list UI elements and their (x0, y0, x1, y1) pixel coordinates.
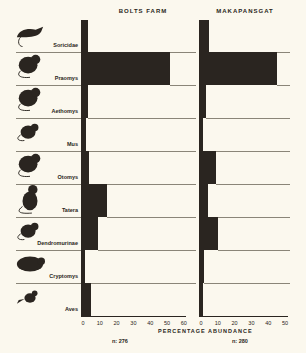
x-tick-label: 50 (282, 320, 288, 326)
rat-icon (8, 85, 52, 119)
rat-icon (8, 151, 52, 185)
bar-tatera (199, 184, 208, 217)
sample-size: n: 276 (112, 338, 128, 344)
row-divider (218, 250, 290, 251)
rat-icon (8, 52, 52, 86)
x-tick-label: 40 (265, 320, 271, 326)
x-axis-label: PERCENTAGE ABUNDANCE (158, 328, 253, 334)
x-tick-label: 0 (199, 320, 202, 326)
bar-soricidae (81, 20, 88, 52)
row-divider (204, 283, 290, 284)
mouse-icon (8, 118, 52, 152)
mole-rat-icon (8, 250, 52, 284)
bar-cryptomys (199, 250, 204, 283)
row-divider (170, 85, 196, 86)
row-divider (98, 250, 196, 251)
row-divider (277, 85, 290, 86)
x-tick-label: 30 (130, 320, 136, 326)
panel-title: BOLTS FARM (83, 8, 203, 14)
row-divider (85, 283, 196, 284)
x-tick-label: 30 (248, 320, 254, 326)
bar-cryptomys (81, 250, 85, 283)
bar-mus (199, 118, 203, 151)
row-divider (216, 184, 290, 185)
mouse-icon (8, 217, 52, 251)
row-divider (206, 118, 290, 119)
bar-otomys (81, 151, 89, 184)
x-tick-label: 10 (215, 320, 221, 326)
x-tick-label: 20 (114, 320, 120, 326)
x-tick-label: 40 (147, 320, 153, 326)
x-tick-label: 50 (164, 320, 170, 326)
x-axis (199, 316, 288, 317)
bar-aethomys (81, 85, 88, 118)
gerbil-icon (8, 184, 52, 218)
bar-soricidae (199, 20, 209, 52)
x-tick-label: 60 (181, 320, 187, 326)
x-tick-label: 20 (232, 320, 238, 326)
bar-otomys (199, 151, 216, 184)
row-divider (208, 217, 290, 218)
bird-icon (8, 283, 52, 317)
bar-tatera (81, 184, 107, 217)
x-axis (81, 316, 186, 317)
bar-praomys (199, 52, 277, 85)
bar-dendromurinae (81, 217, 98, 250)
bar-aves (81, 283, 91, 316)
x-tick-label: 0 (81, 320, 84, 326)
bar-mus (81, 118, 86, 151)
sample-size: n: 280 (232, 338, 248, 344)
bar-dendromurinae (199, 217, 218, 250)
bar-aethomys (199, 85, 206, 118)
row-divider (107, 217, 196, 218)
bar-praomys (81, 52, 170, 85)
panel-title: MAKAPANSGAT (200, 8, 290, 14)
row-divider (88, 118, 196, 119)
bar-aves (199, 283, 203, 316)
x-tick-label: 10 (97, 320, 103, 326)
row-divider (86, 151, 196, 152)
